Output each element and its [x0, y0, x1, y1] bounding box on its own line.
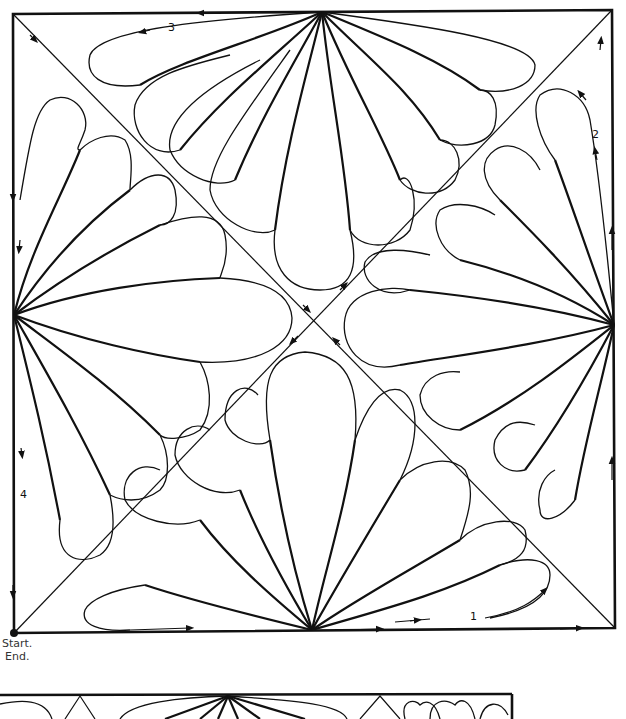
start-end-dot [10, 629, 18, 637]
diagonal-lines [13, 10, 615, 633]
lower-motif-partial [0, 694, 512, 719]
end-label: End. [2, 650, 32, 663]
start-label: Start. [2, 637, 32, 650]
top-fan [89, 12, 535, 290]
start-end-label: Start. End. [2, 637, 32, 663]
path-number-4: 4 [20, 488, 27, 501]
quilt-diagram: 1 2 3 4 [0, 0, 626, 719]
left-fan [14, 97, 292, 559]
path-number-2: 2 [592, 128, 599, 141]
path-number-1: 1 [470, 610, 477, 623]
right-fan [344, 89, 614, 519]
path-number-3: 3 [168, 21, 175, 34]
